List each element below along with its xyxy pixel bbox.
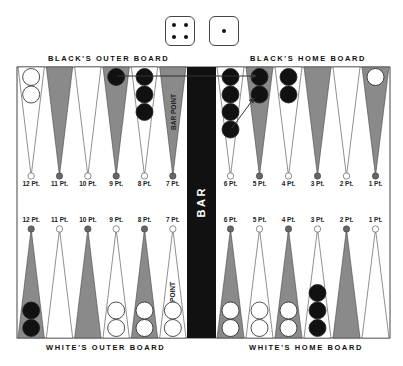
bar-label: B A R xyxy=(195,188,207,217)
black-checker[interactable] xyxy=(309,302,326,319)
point-label: 2 Pt. xyxy=(340,216,354,223)
point-tip-marker xyxy=(170,173,176,179)
point-tip-marker xyxy=(285,226,291,232)
black-checker[interactable] xyxy=(280,69,297,86)
black-checker[interactable] xyxy=(222,86,239,103)
black-checker[interactable] xyxy=(309,285,326,302)
point-label: 3 Pt. xyxy=(311,216,325,223)
point-label: 3 Pt. xyxy=(311,180,325,187)
point-tip-marker xyxy=(256,173,262,179)
white-checker[interactable] xyxy=(280,302,297,319)
black-checker[interactable] xyxy=(136,86,153,103)
point-label: 6 Pt. xyxy=(224,216,238,223)
point-tip-marker xyxy=(170,226,176,232)
black-checker[interactable] xyxy=(280,86,297,103)
point-label: 8 Pt. xyxy=(138,216,152,223)
bar-point-label-bottom: POINT xyxy=(169,282,176,302)
point-tip-marker xyxy=(372,226,378,232)
white-checker[interactable] xyxy=(23,86,40,103)
point-tip-marker xyxy=(85,173,91,179)
white-checker[interactable] xyxy=(136,302,153,319)
point-label: 1 Pt. xyxy=(369,216,383,223)
point-label: 12 Pt. xyxy=(22,216,40,223)
point-label: 5 Pt. xyxy=(253,180,267,187)
point-tip-marker xyxy=(343,173,349,179)
point-label: 8 Pt. xyxy=(138,180,152,187)
white-checker[interactable] xyxy=(367,69,384,86)
point-tip-marker xyxy=(85,226,91,232)
point-tip-marker xyxy=(227,173,233,179)
point-label: 9 Pt. xyxy=(109,216,123,223)
white-checker[interactable] xyxy=(108,302,125,319)
point-tip-marker xyxy=(343,226,349,232)
point-tip-marker xyxy=(28,226,34,232)
point-label: 11 Pt. xyxy=(51,216,68,223)
point-label: 5 Pt. xyxy=(253,216,267,223)
point-tip-marker xyxy=(28,173,34,179)
black-checker[interactable] xyxy=(222,69,239,86)
point-label: 4 Pt. xyxy=(282,216,296,223)
white-checker[interactable] xyxy=(222,302,239,319)
black-checker[interactable] xyxy=(251,69,268,86)
point-label: 7 Pt. xyxy=(166,216,180,223)
point-tip-marker xyxy=(141,226,147,232)
point-tip-marker xyxy=(56,226,62,232)
point-label: 6 Pt. xyxy=(224,180,238,187)
point-label: 9 Pt. xyxy=(109,180,123,187)
point-label: 10 Pt. xyxy=(79,180,97,187)
black-checker[interactable] xyxy=(23,302,40,319)
point-tip-marker xyxy=(314,226,320,232)
white-checker[interactable] xyxy=(108,320,125,337)
white-checker[interactable] xyxy=(23,69,40,86)
point-tip-marker xyxy=(141,173,147,179)
black-checker[interactable] xyxy=(136,104,153,121)
white-checker[interactable] xyxy=(251,320,268,337)
point-tip-marker xyxy=(256,226,262,232)
point-tip-marker xyxy=(113,173,119,179)
white-checker[interactable] xyxy=(251,302,268,319)
point-label: 11 Pt. xyxy=(51,180,68,187)
black-checker[interactable] xyxy=(222,104,239,121)
white-checker[interactable] xyxy=(136,320,153,337)
black-checker[interactable] xyxy=(251,86,268,103)
black-checker[interactable] xyxy=(108,69,125,86)
bar-point-label-top: BAR POINT xyxy=(170,94,177,130)
white-checker[interactable] xyxy=(222,320,239,337)
white-checker[interactable] xyxy=(164,302,181,319)
white-checker[interactable] xyxy=(164,320,181,337)
black-checker[interactable] xyxy=(309,320,326,337)
white-checker[interactable] xyxy=(280,320,297,337)
point-label: 12 Pt. xyxy=(22,180,40,187)
point-label: 10 Pt. xyxy=(79,216,97,223)
point-tip-marker xyxy=(227,226,233,232)
black-checker[interactable] xyxy=(222,121,239,138)
backgammon-board: 12 Pt.11 Pt.10 Pt.9 Pt.8 Pt.7 Pt.6 Pt.5 … xyxy=(0,0,403,366)
point-tip-marker xyxy=(56,173,62,179)
point-tip-marker xyxy=(314,173,320,179)
point-label: 4 Pt. xyxy=(282,180,296,187)
black-checker[interactable] xyxy=(23,320,40,337)
point-tip-marker xyxy=(372,173,378,179)
black-checker[interactable] xyxy=(136,69,153,86)
point-label: 7 Pt. xyxy=(166,180,180,187)
point-tip-marker xyxy=(285,173,291,179)
point-label: 2 Pt. xyxy=(340,180,354,187)
point-tip-marker xyxy=(113,226,119,232)
point-label: 1 Pt. xyxy=(369,180,383,187)
